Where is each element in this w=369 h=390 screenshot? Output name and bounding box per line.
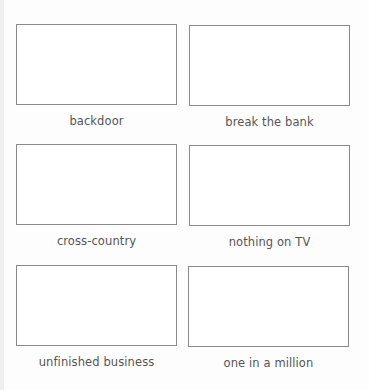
card-label: one in a million [188, 356, 349, 370]
card-label: unfinished business [16, 355, 177, 369]
drawing-box[interactable] [16, 144, 177, 225]
drawing-box[interactable] [189, 25, 350, 106]
card-break-the-bank: break the bank [189, 25, 350, 129]
drawing-box[interactable] [16, 24, 177, 105]
drawing-box[interactable] [16, 265, 177, 346]
card-label: backdoor [16, 114, 177, 128]
card-label: break the bank [189, 115, 350, 129]
card-backdoor: backdoor [16, 24, 177, 128]
card-cross-country: cross-country [16, 144, 177, 248]
card-label: nothing on TV [189, 235, 350, 249]
card-unfinished-business: unfinished business [16, 265, 177, 369]
card-nothing-on-tv: nothing on TV [189, 145, 350, 249]
card-label: cross-country [16, 234, 177, 248]
drawing-box[interactable] [188, 266, 349, 347]
card-one-in-a-million: one in a million [188, 266, 349, 370]
page-edge-shadow [0, 0, 4, 390]
drawing-box[interactable] [189, 145, 350, 226]
